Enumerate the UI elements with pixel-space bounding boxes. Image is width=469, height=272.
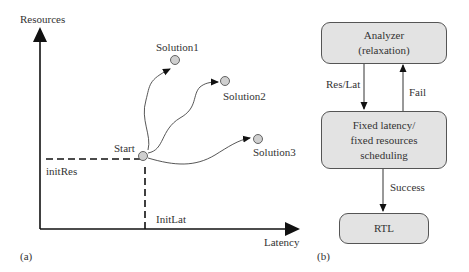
success-label: Success [390,181,425,193]
panel-a-caption: (a) [20,250,32,262]
path-to-solution3 [148,138,250,164]
x-axis-label: Latency [264,236,299,248]
panel-b-caption: (b) [317,250,330,262]
solution3-label: Solution3 [253,146,296,158]
solution1-label: Solution1 [156,41,199,53]
solution2-node [221,77,230,86]
y-axis [33,27,47,229]
start-label: Start [114,142,135,154]
init-res-label: initRes [46,165,77,177]
solution1-node [171,56,180,65]
analyzer-box: Analyzer (relaxation) [321,22,447,64]
rtl-label: RTL [374,221,394,236]
scheduler-line3: scheduling [351,148,418,163]
init-lat-label: InitLat [156,213,186,225]
scheduler-line1: Fixed latency/ [351,118,418,133]
scheduler-line2: fixed resources [351,133,418,148]
res-lat-label: Res/Lat [326,78,360,90]
rtl-box: RTL [339,213,429,244]
analyzer-title: Analyzer [358,28,409,43]
solution2-label: Solution2 [223,90,266,102]
scheduler-box: Fixed latency/ fixed resources schedulin… [321,111,447,169]
path-to-solution2 [148,82,218,153]
solution3-node [254,135,263,144]
y-axis-label: Resources [20,13,65,25]
path-to-solution1 [144,69,170,150]
fail-label: Fail [409,86,426,98]
start-node [139,152,148,161]
analyzer-subtitle: (relaxation) [358,43,409,58]
